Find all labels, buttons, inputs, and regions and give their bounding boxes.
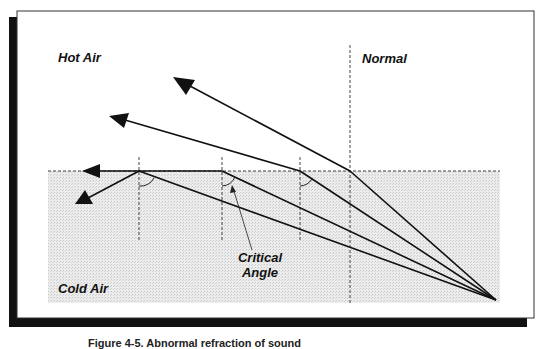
critical-angle-label: Critical Angle [232, 250, 288, 280]
cold-air-label: Cold Air [58, 281, 108, 296]
figure-caption: Figure 4-5. Abnormal refraction of sound [88, 337, 301, 349]
hot-air-label: Hot Air [58, 50, 101, 65]
critical-angle-label-line1: Critical [232, 250, 288, 265]
normal-label: Normal [362, 51, 407, 66]
critical-angle-label-line2: Angle [232, 265, 288, 280]
cold-air-region [48, 171, 500, 303]
frame-shadow-bottom [9, 318, 527, 327]
